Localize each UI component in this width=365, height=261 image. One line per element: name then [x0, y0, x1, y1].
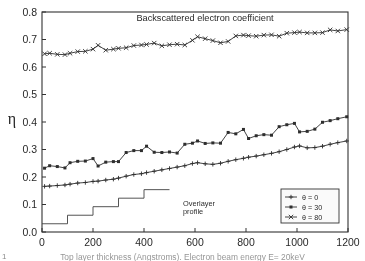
legend-label: θ = 80 [302, 213, 322, 222]
data-point-marker [69, 161, 72, 164]
data-point-marker [336, 140, 340, 144]
y-tick-label: 0.2 [22, 171, 37, 183]
data-point-marker [292, 145, 296, 149]
data-point-marker [262, 133, 265, 136]
data-point-marker [175, 165, 179, 169]
data-point-marker [183, 164, 187, 168]
data-point-marker [290, 206, 293, 209]
y-tick-label: 0.0 [22, 226, 37, 238]
data-point-marker [117, 160, 120, 163]
data-point-marker [83, 180, 87, 184]
data-point-marker [76, 160, 79, 163]
series-3 [42, 27, 349, 56]
data-point-marker [234, 132, 237, 135]
data-point-marker [329, 119, 332, 122]
data-point-marker [328, 142, 332, 146]
data-point-marker [145, 145, 148, 148]
data-point-marker [293, 122, 296, 125]
data-point-marker [203, 162, 207, 166]
y-tick-label: 0.6 [22, 61, 37, 73]
data-point-marker [246, 155, 250, 159]
series-1 [42, 139, 349, 189]
data-point-marker [111, 177, 115, 181]
data-point-marker [226, 159, 230, 163]
overlayer-profile-step [42, 190, 170, 224]
x-tick-label: 600 [186, 236, 204, 248]
data-point-marker [152, 169, 156, 173]
data-point-marker [241, 156, 245, 160]
data-point-marker [167, 166, 171, 170]
data-point-marker [190, 38, 194, 42]
data-point-marker [91, 179, 95, 183]
data-point-marker [84, 160, 87, 163]
data-point-marker [42, 184, 46, 188]
data-point-marker [139, 172, 143, 176]
data-point-marker [270, 134, 273, 137]
data-point-marker [297, 144, 301, 148]
data-point-marker [104, 161, 107, 164]
data-point-marker [191, 142, 194, 145]
data-point-marker [96, 43, 100, 47]
data-point-marker [140, 149, 143, 152]
data-point-marker [345, 115, 348, 118]
x-tick-label: 1200 [336, 236, 360, 248]
data-point-marker [96, 179, 100, 183]
chart-figure: 0.00.10.20.30.40.50.60.70.80200400600800… [0, 0, 365, 261]
data-point-marker [160, 151, 163, 154]
data-point-marker [227, 131, 230, 134]
series-line [45, 117, 347, 168]
data-point-marker [255, 134, 258, 137]
figure-number: 1 [2, 252, 6, 261]
data-point-marker [132, 149, 135, 152]
legend-label: θ = 30 [302, 203, 322, 212]
data-point-marker [112, 160, 115, 163]
series-line [45, 141, 347, 186]
y-axis-label: η [8, 110, 16, 128]
x-tick-label: 200 [84, 236, 102, 248]
y-tick-label: 0.3 [22, 143, 37, 155]
legend-label: θ = 0 [302, 193, 318, 202]
y-tick-label: 0.1 [22, 198, 37, 210]
data-point-marker [97, 165, 100, 168]
data-point-marker [190, 161, 194, 165]
series-2 [43, 115, 348, 169]
data-point-marker [254, 154, 258, 158]
chart-title: Backscattered electron coefficient [136, 13, 274, 23]
data-point-marker [278, 125, 281, 128]
data-point-marker [48, 164, 51, 167]
data-point-marker [43, 167, 46, 170]
data-point-marker [196, 139, 199, 142]
data-point-marker [305, 146, 309, 150]
data-point-marker [132, 172, 136, 176]
data-point-marker [183, 143, 186, 146]
backscattered-electron-coefficient-chart: 0.00.10.20.30.40.50.60.70.80200400600800… [0, 0, 365, 261]
data-point-marker [92, 157, 95, 160]
data-point-marker [76, 181, 80, 185]
overlayer-label-line2: profile [183, 207, 203, 216]
data-point-marker [298, 130, 301, 133]
y-tick-label: 0.4 [22, 116, 37, 128]
data-point-marker [306, 130, 309, 133]
data-point-marker [234, 157, 238, 161]
data-point-marker [176, 152, 179, 155]
y-tick-label: 0.7 [22, 33, 37, 45]
data-point-marker [124, 174, 128, 178]
data-point-marker [63, 166, 66, 169]
data-point-marker [63, 183, 67, 187]
data-point-marker [211, 141, 214, 144]
data-point-marker [68, 182, 72, 186]
data-point-marker [285, 147, 289, 151]
data-point-marker [144, 170, 148, 174]
x-tick-label: 0 [39, 236, 45, 248]
x-tick-label: 400 [135, 236, 153, 248]
data-point-marker [160, 168, 164, 172]
data-point-marker [116, 176, 120, 180]
data-point-marker [211, 162, 215, 166]
data-point-marker [313, 128, 316, 131]
data-point-marker [125, 151, 128, 154]
data-point-marker [262, 153, 266, 157]
data-point-marker [219, 142, 222, 145]
y-tick-label: 0.5 [22, 88, 37, 100]
data-point-marker [47, 184, 51, 188]
x-tick-label: 800 [237, 236, 255, 248]
